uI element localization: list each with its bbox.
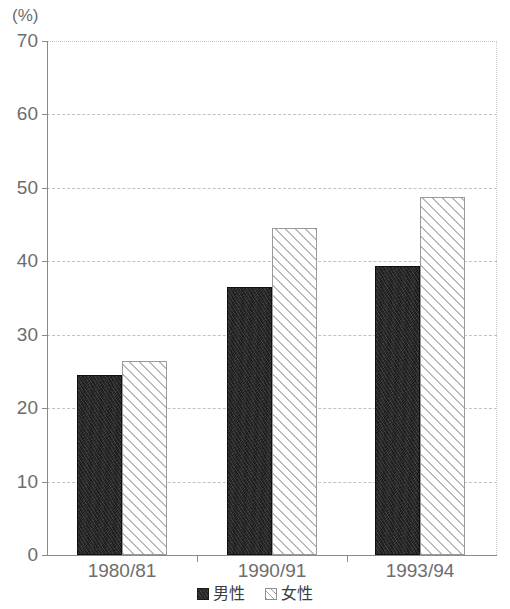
x-axis-separator-tick-2 (347, 555, 348, 562)
legend-label-female: 女性 (281, 586, 313, 602)
bar-male-1980-81 (77, 375, 122, 555)
bars-layer (47, 41, 497, 555)
bar-female-1993-94 (420, 197, 465, 555)
y-axis-tick-label-0: 0 (0, 545, 38, 564)
bar-female-1990-91 (272, 228, 317, 555)
legend-swatch-icon-male (197, 588, 209, 600)
x-axis-line (47, 555, 497, 556)
legend-label-male: 男性 (213, 586, 245, 602)
legend-item-female[interactable]: 女性 (265, 586, 313, 602)
y-axis-tick-label-60: 60 (0, 104, 38, 123)
y-axis-unit-label: (%) (12, 6, 38, 26)
y-axis-tick-label-40: 40 (0, 251, 38, 270)
bar-female-1980-81 (122, 361, 167, 555)
y-axis-tick-label-30: 30 (0, 325, 38, 344)
bar-male-1993-94 (375, 266, 420, 555)
y-axis-tick-label-10: 10 (0, 472, 38, 491)
legend-swatch-icon-female (265, 588, 277, 600)
x-axis-category-label-1993-94: 1993/94 (386, 560, 455, 582)
bar-male-1990-91 (227, 287, 272, 555)
x-axis-category-label-1990-91: 1990/91 (238, 560, 307, 582)
y-axis-tick-label-70: 70 (0, 31, 38, 50)
y-axis-tick-label-50: 50 (0, 178, 38, 197)
x-axis-category-label-1980-81: 1980/81 (88, 560, 157, 582)
chart-legend: 男性女性 (0, 586, 510, 602)
x-axis-separator-tick-1 (197, 555, 198, 562)
bar-chart: (%) 010203040506070 1980/811990/911993/9… (0, 0, 510, 609)
y-axis-tick-label-20: 20 (0, 398, 38, 417)
legend-item-male[interactable]: 男性 (197, 586, 245, 602)
